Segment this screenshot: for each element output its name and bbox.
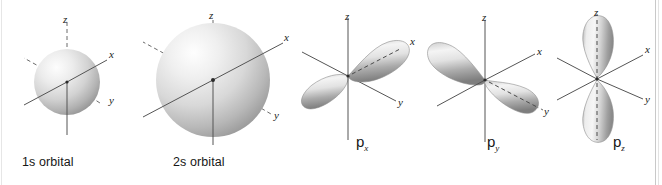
axis-label-x: x bbox=[410, 36, 415, 47]
origin-dot-2s bbox=[211, 78, 215, 82]
orbital-diagram-px: z x y bbox=[300, 0, 425, 148]
axis-label-z: z bbox=[345, 11, 349, 22]
label-py-orbital: py bbox=[487, 133, 499, 153]
lobe-px-positive bbox=[348, 40, 409, 82]
caption-1s-orbital: 1s orbital bbox=[22, 155, 74, 169]
origin-dot-1s bbox=[65, 80, 68, 83]
axis-label-y: y bbox=[109, 95, 114, 106]
label-py-sub: y bbox=[495, 143, 499, 153]
caption-2s-orbital: 2s orbital bbox=[173, 155, 225, 169]
axis-label-x: x bbox=[645, 44, 650, 55]
orbital-figure: z x y 1s orbital z bbox=[0, 0, 662, 185]
lobe-py-positive bbox=[485, 80, 539, 113]
label-px-sub: x bbox=[364, 143, 368, 153]
label-px-orbital: px bbox=[356, 133, 368, 153]
orbital-panel-py: z x y py bbox=[425, 0, 555, 185]
axis-label-x: x bbox=[109, 49, 114, 60]
origin-dot-pz bbox=[595, 77, 598, 80]
orbital-panel-2s: z x y 2s orbital bbox=[135, 0, 295, 185]
lobe-pz-positive bbox=[583, 16, 614, 78]
orbital-diagram-1s: z x y bbox=[0, 0, 135, 148]
axis-label-y: y bbox=[274, 110, 279, 121]
orbital-diagram-2s: z x y bbox=[135, 0, 295, 148]
origin-dot-py bbox=[483, 78, 486, 81]
axis-label-x: x bbox=[537, 46, 542, 57]
orbital-panel-1s: z x y 1s orbital bbox=[0, 0, 135, 185]
orbital-diagram-pz: z x y bbox=[555, 0, 655, 148]
axis-label-y: y bbox=[398, 97, 403, 108]
axis-label-z: z bbox=[209, 10, 213, 21]
axis-label-z: z bbox=[63, 14, 67, 25]
lobe-px-negative bbox=[301, 74, 348, 108]
origin-dot-px bbox=[346, 74, 349, 77]
axis-label-z: z bbox=[482, 12, 486, 23]
orbital-panel-px: z x y px bbox=[300, 0, 425, 185]
orbital-panel-pz: z x y pz bbox=[555, 0, 655, 185]
axis-label-y: y bbox=[645, 94, 650, 105]
axis-label-x: x bbox=[284, 32, 289, 43]
label-pz-sub: z bbox=[621, 143, 625, 153]
plate-rule-right-outer bbox=[658, 0, 659, 185]
lobe-pz-negative bbox=[583, 80, 614, 142]
lobe-py-negative bbox=[428, 43, 485, 85]
label-pz-orbital: pz bbox=[613, 133, 625, 153]
axis-label-y: y bbox=[544, 106, 549, 117]
orbital-diagram-py: z x y bbox=[425, 0, 555, 148]
axis-label-z: z bbox=[594, 7, 598, 18]
plate-rule-right bbox=[655, 0, 656, 185]
